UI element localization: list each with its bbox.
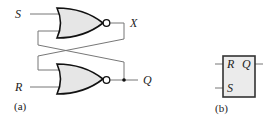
- block-label-r: R: [226, 57, 235, 71]
- block-label-q: Q: [242, 57, 251, 71]
- bottom-nor-gate: [57, 64, 110, 94]
- figure-a: S R X Q (a): [14, 7, 152, 113]
- figure-b: R Q S (b): [215, 56, 263, 115]
- junction-dot: [122, 78, 126, 82]
- nor-gate-body-top: [57, 8, 103, 38]
- label-x: X: [129, 16, 138, 30]
- block-label-s: S: [227, 81, 233, 95]
- nor-gate-body-bottom: [57, 64, 103, 94]
- inversion-bubble-bottom: [103, 77, 110, 84]
- label-r: R: [14, 80, 23, 94]
- caption-a: (a): [14, 100, 27, 113]
- top-nor-gate: [57, 8, 110, 38]
- label-s: S: [15, 7, 21, 21]
- inversion-bubble-top: [103, 20, 110, 27]
- sr-latch-diagram: S R X Q (a) R Q S (b): [0, 0, 277, 125]
- caption-b: (b): [215, 102, 228, 115]
- label-q: Q: [143, 73, 152, 87]
